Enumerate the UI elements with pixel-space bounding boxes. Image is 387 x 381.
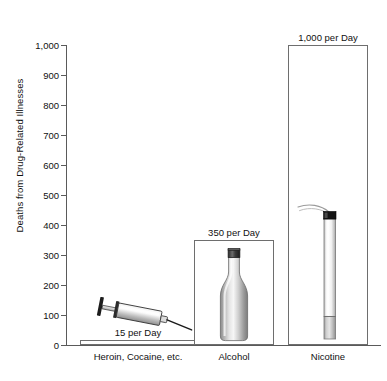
bar-value-label: 1,000 per Day [298, 32, 358, 43]
y-tick-label: 500 [43, 190, 59, 201]
y-axis-line [66, 45, 67, 345]
plot-area: 1,000 900 800 700 600 500 400 300 200 10… [66, 45, 381, 345]
bottle-icon [211, 244, 257, 342]
y-tick-label: 400 [43, 220, 59, 231]
bar-chart: Deaths from Drug-Related Illnesses 1,000… [0, 0, 387, 381]
y-tick-label: 100 [43, 310, 59, 321]
y-tick-label: 1,000 [35, 40, 59, 51]
bar-value-label: 350 per Day [208, 227, 260, 238]
x-axis-line [66, 345, 381, 346]
x-axis-label-nicotine: Nicotine [311, 351, 345, 362]
x-axis-label-heroin: Heroin, Cocaine, etc. [94, 351, 183, 362]
y-tick-label: 0 [54, 340, 59, 351]
y-axis-title: Deaths from Drug-Related Illnesses [14, 41, 25, 271]
cigarette-icon [291, 196, 365, 342]
bar-nicotine[interactable]: 1,000 per Day [288, 45, 368, 345]
bar-alcohol[interactable]: 350 per Day [194, 240, 274, 345]
y-tick-label: 700 [43, 130, 59, 141]
y-tick-label: 200 [43, 280, 59, 291]
y-tick-label: 600 [43, 160, 59, 171]
y-tick-label: 900 [43, 70, 59, 81]
y-tick-label: 300 [43, 250, 59, 261]
x-axis-label-alcohol: Alcohol [218, 351, 249, 362]
y-tick-label: 800 [43, 100, 59, 111]
bar-value-label: 15 per Day [115, 327, 161, 338]
bar-heroin-cocaine[interactable]: 15 per Day [80, 340, 196, 345]
